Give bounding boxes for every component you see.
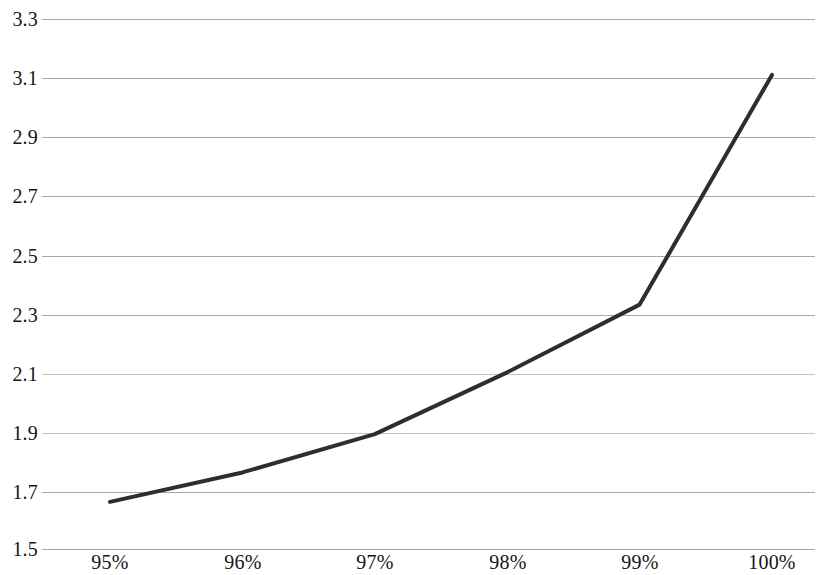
- x-tick-label-95: 95%: [65, 551, 155, 573]
- x-tick-label-96: 96%: [198, 551, 288, 573]
- x-tick-label-100: 100%: [727, 551, 817, 573]
- x-tick-label-98: 98%: [463, 551, 553, 573]
- series-line-0: [110, 75, 772, 502]
- x-tick-label-97: 97%: [330, 551, 420, 573]
- line-chart: 3.3 3.1 2.9 2.7 2.5 2.3 2.1 1.9 1.7 1.5 …: [0, 0, 820, 575]
- plot-area: [0, 0, 820, 575]
- x-tick-label-99: 99%: [595, 551, 685, 573]
